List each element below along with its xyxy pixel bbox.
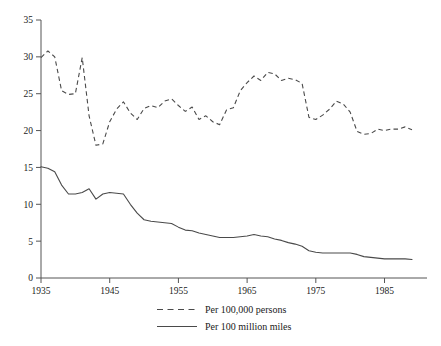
line-chart: 05101520253035 193519451955196519751985 … [0, 0, 441, 346]
x-tick-label: 1975 [306, 286, 325, 296]
series-line-2 [41, 167, 412, 260]
x-tick-label: 1945 [100, 286, 119, 296]
y-tick-label: 0 [28, 273, 33, 283]
x-tick-label: 1935 [32, 286, 51, 296]
y-tick-label: 20 [24, 126, 34, 136]
series-line-1 [41, 51, 412, 145]
y-tick-label: 15 [24, 163, 34, 173]
chart-legend: Per 100,000 personsPer 100 million miles [157, 304, 291, 332]
legend-label-2: Per 100 million miles [205, 321, 291, 332]
y-tick-label: 30 [24, 52, 34, 62]
x-tick-label: 1955 [169, 286, 188, 296]
y-tick-label: 10 [24, 200, 34, 210]
x-tick-label: 1985 [375, 286, 394, 296]
legend-label-1: Per 100,000 persons [205, 304, 286, 315]
y-tick-label: 25 [24, 89, 34, 99]
x-tick-label: 1965 [238, 286, 257, 296]
x-tick-group: 193519451955196519751985 [32, 278, 395, 296]
series-group [41, 51, 412, 260]
y-tick-label: 5 [28, 237, 33, 247]
chart-container: 05101520253035 193519451955196519751985 … [0, 0, 441, 346]
y-tick-group: 05101520253035 [24, 15, 42, 283]
y-tick-label: 35 [24, 15, 34, 25]
